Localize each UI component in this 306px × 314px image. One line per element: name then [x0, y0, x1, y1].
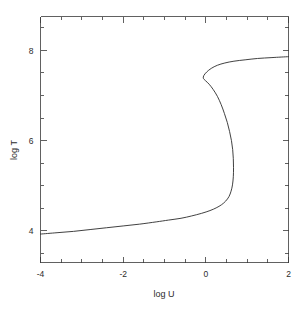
y-axis-tick-labels: 468 [29, 46, 34, 237]
figure-container: -4-202 468 log U log T [0, 0, 306, 314]
y-axis-minor-ticks [41, 28, 289, 254]
data-curve [41, 57, 289, 234]
y-axis-major-ticks [41, 50, 289, 231]
x-tick-label: 0 [203, 269, 208, 279]
data-series-group [41, 57, 289, 234]
line-chart: -4-202 468 log U log T [0, 0, 306, 314]
y-tick-label: 4 [29, 226, 34, 236]
y-tick-label: 6 [29, 136, 34, 146]
x-axis-tick-labels: -4-202 [37, 269, 291, 279]
plot-frame [41, 17, 289, 263]
x-tick-label: -2 [119, 269, 127, 279]
y-tick-label: 8 [29, 46, 34, 56]
x-axis-major-ticks [41, 17, 289, 263]
x-tick-label: 2 [286, 269, 291, 279]
x-tick-label: -4 [37, 269, 45, 279]
y-axis-title: log T [9, 140, 19, 160]
axes-frame [41, 17, 289, 263]
x-axis-minor-ticks [61, 17, 268, 263]
x-axis-title: log U [153, 289, 174, 299]
